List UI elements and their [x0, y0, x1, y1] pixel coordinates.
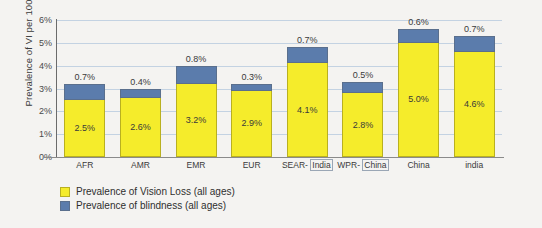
- x-axis-category-label: india: [446, 160, 502, 170]
- x-axis-category-label: AFR: [57, 160, 113, 170]
- legend-swatch-icon: [60, 201, 70, 211]
- bar-value-label-vision-loss: 2.5%: [65, 123, 104, 133]
- y-axis-tick-label: 5%: [39, 38, 52, 48]
- bar-segment-vision-loss[interactable]: 2.9%: [231, 91, 272, 157]
- bar-value-label-vision-loss: 3.2%: [177, 115, 216, 125]
- legend-item[interactable]: Prevalence of blindness (all ages): [60, 200, 235, 211]
- bar-segment-vision-loss[interactable]: 2.6%: [120, 98, 161, 157]
- bar-group[interactable]: 0.3%2.9%: [231, 20, 272, 157]
- x-axis-category-label: EMR: [168, 160, 224, 170]
- bar-value-label-blindness: 0.4%: [121, 77, 160, 87]
- bar-segment-blindness[interactable]: 0.5%: [342, 82, 383, 93]
- bar-segment-blindness[interactable]: 0.7%: [454, 36, 495, 52]
- bar-segment-blindness[interactable]: 0.7%: [64, 84, 105, 100]
- bar-value-label-vision-loss: 4.6%: [455, 99, 494, 109]
- bar-value-label-blindness: 0.3%: [232, 72, 271, 82]
- y-axis-tick-labels: 0%1%2%3%4%5%6%: [22, 20, 52, 157]
- bar-value-label-vision-loss: 2.6%: [121, 122, 160, 132]
- bar-segment-vision-loss[interactable]: 2.8%: [342, 93, 383, 157]
- x-axis-category-labels: AFRAMREMREURSEAR- IndiaWPR- ChinaChinain…: [57, 160, 502, 176]
- bar-segment-vision-loss[interactable]: 2.5%: [64, 100, 105, 157]
- x-axis-category-label: AMR: [113, 160, 169, 170]
- stacked-bar-chart-figure: Prevalence of VI per 100 pop 0%1%2%3%4%5…: [0, 0, 542, 228]
- y-axis-tick-label: 4%: [39, 61, 52, 71]
- legend-label: Prevalence of Vision Loss (all ages): [76, 186, 235, 197]
- bar-value-label-vision-loss: 2.9%: [232, 118, 271, 128]
- bar-value-label-vision-loss: 5.0%: [399, 94, 438, 104]
- bar-group[interactable]: 0.5%2.8%: [342, 20, 383, 157]
- y-axis-tick-label: 1%: [39, 129, 52, 139]
- bar-segment-blindness[interactable]: 0.6%: [398, 29, 439, 43]
- bar-group[interactable]: 0.6%5.0%: [398, 20, 439, 157]
- legend-item[interactable]: Prevalence of Vision Loss (all ages): [60, 186, 235, 197]
- bar-value-label-blindness: 0.7%: [65, 72, 104, 82]
- bar-value-label-vision-loss: 4.1%: [288, 105, 327, 115]
- bar-value-label-blindness: 0.5%: [343, 70, 382, 80]
- bar-segment-blindness[interactable]: 0.7%: [287, 47, 328, 63]
- bar-group[interactable]: 0.7%4.1%: [287, 20, 328, 157]
- y-axis-tick-label: 6%: [39, 15, 52, 25]
- bar-value-label-blindness: 0.7%: [288, 35, 327, 45]
- chart-legend: Prevalence of Vision Loss (all ages)Prev…: [60, 186, 235, 214]
- bar-group[interactable]: 0.4%2.6%: [120, 20, 161, 157]
- bar-segment-vision-loss[interactable]: 3.2%: [176, 84, 217, 157]
- x-axis-category-label: WPR- China: [335, 160, 391, 170]
- bar-value-label-blindness: 0.8%: [177, 54, 216, 64]
- bar-value-label-blindness: 0.7%: [455, 24, 494, 34]
- bar-segment-blindness[interactable]: 0.8%: [176, 66, 217, 84]
- bars-layer: 0.7%2.5%0.4%2.6%0.8%3.2%0.3%2.9%0.7%4.1%…: [57, 20, 502, 157]
- bar-group[interactable]: 0.7%2.5%: [64, 20, 105, 157]
- x-axis-line: [44, 157, 504, 158]
- bar-value-label-vision-loss: 2.8%: [343, 120, 382, 130]
- bar-segment-vision-loss[interactable]: 4.6%: [454, 52, 495, 157]
- legend-swatch-icon: [60, 187, 70, 197]
- bar-segment-vision-loss[interactable]: 5.0%: [398, 43, 439, 157]
- bar-segment-vision-loss[interactable]: 4.1%: [287, 63, 328, 157]
- x-axis-category-label: China: [391, 160, 447, 170]
- bar-segment-blindness[interactable]: 0.4%: [120, 89, 161, 98]
- legend-label: Prevalence of blindness (all ages): [76, 200, 226, 211]
- bar-segment-blindness[interactable]: 0.3%: [231, 84, 272, 91]
- bar-value-label-blindness: 0.6%: [399, 17, 438, 27]
- bar-group[interactable]: 0.7%4.6%: [454, 20, 495, 157]
- x-axis-category-label: SEAR- India: [280, 160, 336, 170]
- x-axis-category-label: EUR: [224, 160, 280, 170]
- bar-group[interactable]: 0.8%3.2%: [176, 20, 217, 157]
- y-axis-tick-label: 3%: [39, 84, 52, 94]
- y-axis-tick-label: 2%: [39, 106, 52, 116]
